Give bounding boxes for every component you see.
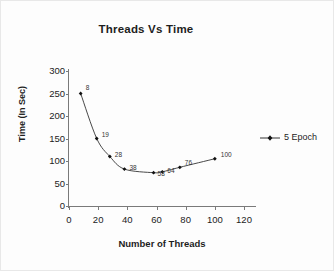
- chart-figure: Threads Vs Time Time (In Sec) 0501001502…: [0, 0, 334, 271]
- x-tick-mark: [127, 207, 128, 210]
- y-tick-label: 50: [35, 179, 65, 189]
- data-point-label: 28: [115, 152, 122, 159]
- data-point-label: 8: [86, 85, 90, 92]
- data-point-marker: [79, 92, 83, 96]
- y-tick-label: 300: [35, 66, 65, 76]
- x-tick-mark: [69, 207, 70, 210]
- x-tick-mark: [215, 207, 216, 210]
- x-tick-mark: [244, 207, 245, 210]
- chart-legend: 5 Epoch: [259, 133, 317, 142]
- y-tick-label: 150: [35, 134, 65, 144]
- legend-label-5-epoch: 5 Epoch: [284, 133, 317, 142]
- series-5-epoch: [69, 71, 244, 206]
- x-tick-mark: [186, 207, 187, 210]
- x-axis-ticks: 020406080100120: [1, 207, 334, 231]
- x-tick-mark: [98, 207, 99, 210]
- y-tick-label: 100: [35, 156, 65, 166]
- data-point-label: 38: [129, 165, 136, 172]
- plot-area: 8192838586476100: [69, 71, 244, 206]
- x-tick-label: 120: [227, 215, 261, 225]
- x-axis-title: Number of Threads: [68, 238, 256, 249]
- data-point-label: 19: [102, 132, 109, 139]
- legend-marker-icon: [259, 134, 281, 142]
- data-point-marker: [95, 137, 99, 141]
- y-tick-label: 250: [35, 89, 65, 99]
- data-point-label: 76: [185, 160, 192, 167]
- y-axis-title: Time (In Sec): [17, 66, 27, 162]
- data-point-label: 58: [158, 171, 165, 178]
- x-tick-mark: [157, 207, 158, 210]
- data-point-marker: [152, 171, 156, 175]
- y-tick-label: 200: [35, 111, 65, 121]
- data-point-label: 100: [221, 152, 232, 159]
- data-point-marker: [178, 165, 182, 169]
- data-point-label: 64: [167, 168, 174, 175]
- data-point-marker: [123, 167, 127, 171]
- data-point-marker: [213, 157, 217, 161]
